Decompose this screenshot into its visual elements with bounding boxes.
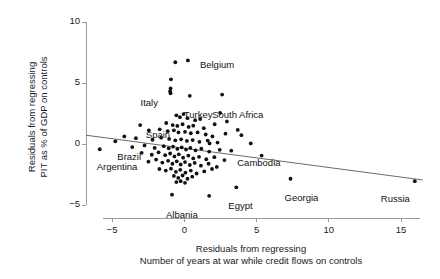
data-point [191, 124, 195, 128]
data-point [157, 150, 161, 154]
data-point [173, 155, 177, 159]
data-point [162, 144, 166, 148]
data-point [207, 194, 211, 198]
data-point [224, 132, 228, 136]
data-point [154, 158, 158, 162]
data-point [171, 162, 175, 166]
data-point [202, 170, 206, 174]
data-point [178, 115, 182, 119]
data-point [98, 147, 102, 151]
data-point [191, 157, 195, 161]
data-point [207, 162, 211, 166]
data-point [172, 128, 176, 132]
data-point [174, 170, 178, 174]
data-point [211, 135, 215, 139]
data-point [229, 149, 233, 153]
data-point [171, 123, 175, 127]
data-point [169, 77, 173, 81]
data-point [199, 147, 203, 151]
data-point [183, 130, 187, 134]
data-point [169, 167, 173, 171]
data-point [199, 164, 203, 168]
data-point [169, 91, 173, 95]
x-axis-title: Residuals from regressing Number of year… [86, 243, 416, 267]
axes-group [82, 22, 420, 222]
data-point [181, 156, 185, 160]
data-point [171, 145, 175, 149]
data-point [186, 59, 190, 63]
data-point [164, 121, 168, 125]
x-axis-title-line2: Number of years at war while credit flow… [86, 255, 416, 267]
data-point [187, 125, 191, 129]
data-point [163, 153, 167, 157]
data-point [210, 167, 214, 171]
data-point [150, 153, 154, 157]
data-point [189, 131, 193, 135]
point-label-belgium: Belgium [200, 59, 234, 70]
data-point [289, 177, 293, 181]
data-point [236, 128, 240, 132]
data-point [234, 185, 238, 189]
data-point [178, 168, 182, 172]
data-point [167, 146, 171, 150]
data-point [208, 141, 212, 145]
x-axis-title-line1: Residuals from regressing [86, 243, 416, 255]
y-axis-title-container: Residuals from regressing PIT as % of GD… [0, 0, 34, 230]
data-point [175, 124, 179, 128]
data-point [207, 150, 211, 154]
data-point [185, 139, 189, 143]
data-point [184, 148, 188, 152]
data-point [175, 159, 179, 163]
y-tick-label: 0 [58, 137, 80, 148]
point-label-egypt: Egypt [228, 200, 252, 211]
x-tick-label: 5 [242, 224, 272, 235]
data-point [186, 154, 190, 158]
data-point [188, 94, 192, 98]
data-point [194, 148, 198, 152]
data-point [218, 148, 222, 152]
point-label-argentina: Argentina [97, 161, 138, 172]
data-point [164, 169, 168, 173]
data-point [130, 145, 134, 149]
point-label-cambodia: Cambodia [237, 157, 280, 168]
x-tick-label: 15 [386, 224, 416, 235]
data-point [198, 140, 202, 144]
data-point [172, 174, 176, 178]
data-point [179, 163, 183, 167]
point-label-russia: Russia [381, 193, 410, 204]
data-point [220, 93, 224, 97]
data-point [170, 193, 174, 197]
data-point [188, 163, 192, 167]
data-point [177, 152, 181, 156]
data-point [173, 138, 177, 142]
point-label-italy: Italy [141, 97, 158, 108]
data-point [413, 179, 417, 183]
data-point [158, 167, 162, 171]
data-point [174, 180, 178, 184]
y-tick-label: −5 [58, 198, 80, 209]
data-point [204, 133, 208, 137]
data-point [212, 155, 216, 159]
data-point [179, 137, 183, 141]
data-point [179, 179, 183, 183]
data-point [191, 138, 195, 142]
data-point [249, 141, 253, 145]
data-point [113, 139, 117, 143]
x-tick-label: −5 [97, 224, 127, 235]
data-point [175, 147, 179, 151]
data-point [147, 160, 151, 164]
data-point [143, 144, 147, 148]
data-point [168, 152, 172, 156]
y-tick-label: 10 [58, 15, 80, 26]
y-axis-title-line1: Residuals from regressing [26, 12, 38, 222]
data-point [166, 159, 170, 163]
data-point [134, 136, 138, 140]
data-points-group [98, 59, 417, 198]
data-point [184, 171, 188, 175]
data-point [177, 131, 181, 135]
y-tick-label: 5 [58, 76, 80, 87]
x-tick-label: 0 [169, 224, 199, 235]
data-point [186, 177, 190, 181]
data-point [215, 165, 219, 169]
data-point [160, 161, 164, 165]
